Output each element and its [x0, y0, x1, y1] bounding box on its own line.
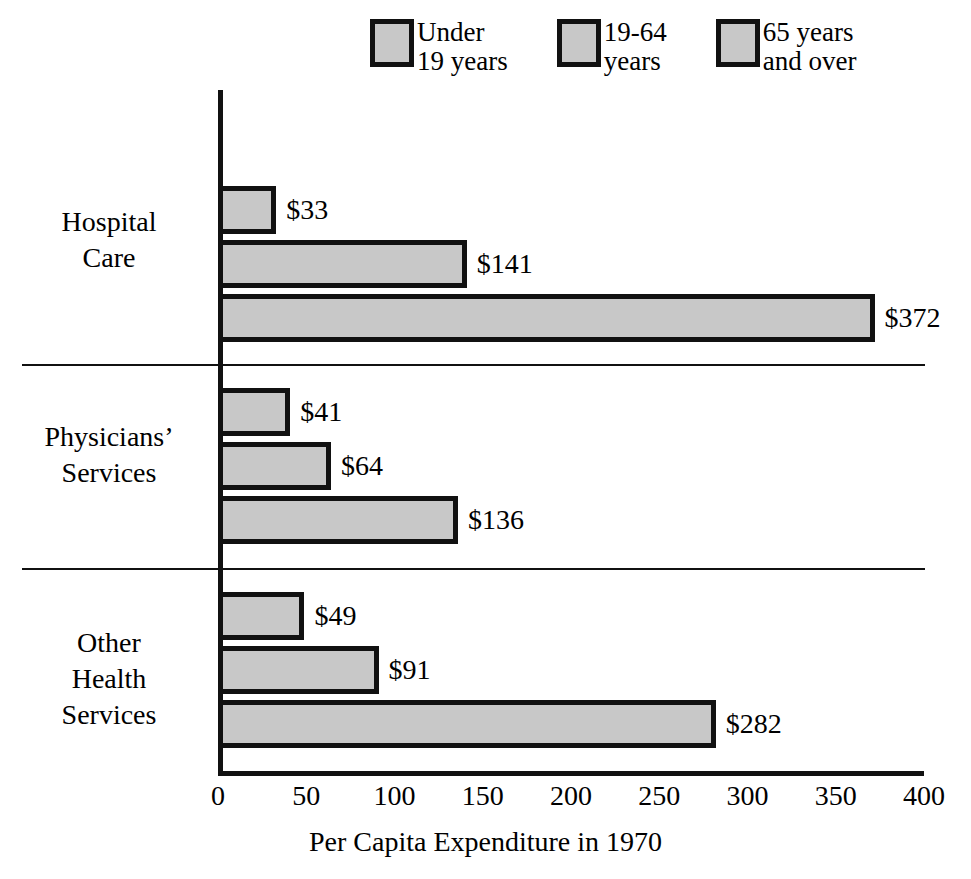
bar [218, 294, 875, 342]
x-tick-label: 150 [453, 780, 513, 812]
category-label-physicians-services: Physicians’ Services [20, 419, 198, 491]
legend-label: Under 19 years [417, 18, 508, 76]
bar-value-label: $49 [314, 592, 356, 640]
bar [218, 496, 458, 544]
legend-label: 65 years and over [763, 18, 857, 76]
bar [218, 388, 290, 436]
x-tick-label: 200 [541, 780, 601, 812]
bar [218, 592, 304, 640]
bar-value-label: $282 [726, 700, 782, 748]
bar-value-label: $372 [885, 294, 941, 342]
group-separator-line [22, 568, 925, 570]
category-label-hospital-care: Hospital Care [20, 204, 198, 276]
category-label-other-health-services: Other Health Services [20, 625, 198, 733]
bar-value-label: $136 [468, 496, 524, 544]
x-axis-line [218, 771, 924, 776]
x-tick-label: 100 [365, 780, 425, 812]
bar-value-label: $41 [300, 388, 342, 436]
legend-item-65-and-over: 65 years and over [716, 18, 857, 76]
legend-label: 19-64 years [604, 18, 667, 76]
bar-value-label: $141 [477, 240, 533, 288]
bar [218, 700, 716, 748]
x-tick-label: 250 [629, 780, 689, 812]
x-axis-title: Per Capita Expenditure in 1970 [0, 826, 971, 858]
x-tick-label: 0 [188, 780, 248, 812]
bar [218, 240, 467, 288]
legend-swatch-icon [716, 19, 760, 67]
bar-chart: Under 19 years 19-64 years 65 years and … [0, 0, 971, 879]
x-tick-label: 50 [276, 780, 336, 812]
legend-item-19-64: 19-64 years [557, 18, 667, 76]
bar [218, 442, 331, 490]
bar-value-label: $91 [389, 646, 431, 694]
legend-swatch-icon [370, 19, 414, 67]
x-tick-label: 300 [718, 780, 778, 812]
bar [218, 186, 276, 234]
group-separator-line [22, 364, 925, 366]
bar-value-label: $64 [341, 442, 383, 490]
x-tick-label: 350 [806, 780, 866, 812]
chart-legend: Under 19 years 19-64 years 65 years and … [370, 18, 856, 76]
bar-value-label: $33 [286, 186, 328, 234]
bar [218, 646, 379, 694]
legend-swatch-icon [557, 19, 601, 67]
legend-item-under-19: Under 19 years [370, 18, 508, 76]
x-tick-label: 400 [894, 780, 954, 812]
